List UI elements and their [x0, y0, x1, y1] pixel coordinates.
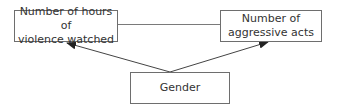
node-label-line: violence watched [15, 33, 117, 47]
node-aggressive-acts: Number of aggressive acts [220, 10, 322, 42]
node-gender: Gender [130, 72, 230, 104]
node-label-line: Gender [160, 81, 201, 95]
node-label-line: Number of hours of [15, 5, 117, 33]
arrow-gender-to-aggressive [170, 42, 268, 72]
node-hours-of-violence-watched: Number of hours of violence watched [14, 10, 118, 42]
arrow-gender-to-hours [67, 43, 170, 72]
node-label-line: aggressive acts [228, 26, 314, 40]
node-label-line: Number of [228, 12, 314, 26]
